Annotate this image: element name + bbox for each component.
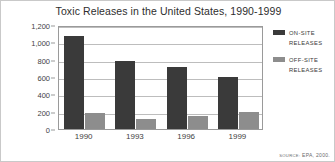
source-text: EPA, 2000.	[302, 152, 330, 158]
source-note: SOURCE: EPA, 2000.	[279, 152, 330, 158]
bar-group	[213, 27, 264, 129]
y-tick-label: 800	[37, 56, 50, 65]
y-tick-label: 0	[46, 126, 50, 135]
y-tick-mark	[51, 26, 55, 27]
bar	[64, 36, 84, 129]
source-prefix: SOURCE:	[279, 153, 300, 158]
legend-item: ON-SITE RELEASES	[273, 29, 335, 48]
legend-swatch-icon	[273, 57, 285, 62]
bar	[85, 113, 105, 129]
y-tick-label: 200	[37, 108, 50, 117]
x-tick-label: 1996	[177, 132, 195, 141]
bar	[218, 77, 238, 129]
bar	[115, 61, 135, 129]
legend-label: OFF-SITE RELEASES	[289, 56, 322, 75]
y-tick-label: 1,000	[31, 39, 50, 48]
y-tick-label: 1,200	[31, 22, 50, 31]
y-tick-mark	[51, 43, 55, 44]
legend-label: ON-SITE RELEASES	[289, 29, 322, 48]
y-tick-mark	[51, 95, 55, 96]
y-tick-label: 400	[37, 91, 50, 100]
chart-legend: ON-SITE RELEASESOFF-SITE RELEASES	[273, 29, 335, 83]
y-tick-mark	[51, 60, 55, 61]
bar	[239, 112, 259, 129]
legend-swatch-icon	[273, 30, 285, 35]
x-tick-label: 1990	[75, 132, 93, 141]
y-tick-mark	[51, 112, 55, 113]
y-tick-mark	[51, 130, 55, 131]
plot-area	[58, 26, 263, 130]
bars-layer	[59, 27, 262, 129]
x-tick-label: 1999	[228, 132, 246, 141]
x-axis-ticks: 1990199319961999	[58, 132, 263, 146]
bar-group	[162, 27, 213, 129]
bar-group	[59, 27, 110, 129]
x-tick-label: 1993	[126, 132, 144, 141]
bar	[167, 67, 187, 129]
y-axis-ticks: 02004006008001,0001,200	[21, 26, 55, 130]
y-tick-mark	[51, 78, 55, 79]
legend-item: OFF-SITE RELEASES	[273, 56, 335, 75]
bar	[136, 119, 156, 129]
chart-figure: Toxic Releases in the United States, 199…	[0, 0, 335, 162]
chart-title: Toxic Releases in the United States, 199…	[1, 5, 335, 17]
bar-group	[110, 27, 161, 129]
bar	[188, 116, 208, 129]
y-tick-label: 600	[37, 74, 50, 83]
